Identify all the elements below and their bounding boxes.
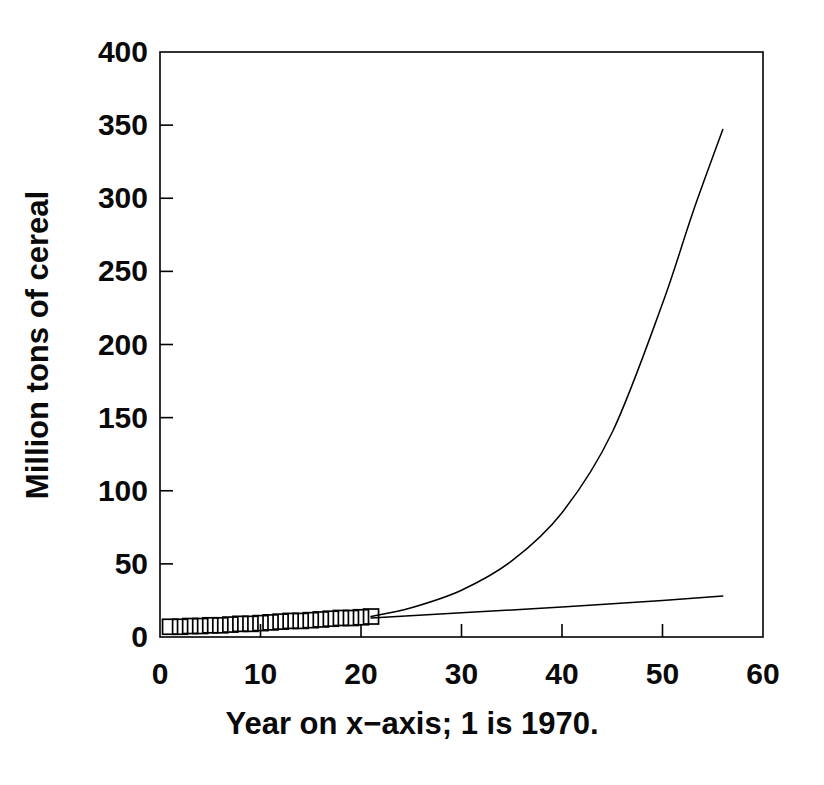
series-observed-markers [163, 609, 379, 634]
plot-frame [160, 52, 763, 637]
x-tick-label-40: 40 [545, 659, 578, 689]
x-tick-label-0: 0 [152, 659, 169, 689]
x-tick-label-10: 10 [244, 659, 277, 689]
x-tick-label-60: 60 [746, 659, 779, 689]
x-tick-label-50: 50 [646, 659, 679, 689]
chart-figure: 050100150200250300350400 0102030405060 M… [0, 0, 824, 785]
y-axis-title-text: Million tons of cereal [20, 190, 56, 498]
y-axis-title: Million tons of cereal [16, 52, 60, 637]
x-tick-label-20: 20 [344, 659, 377, 689]
series-linear-projection-line [371, 596, 723, 618]
series-exponential-projection-curve [371, 130, 723, 617]
data-marker [364, 609, 379, 624]
y-axis-tick-marks [160, 125, 173, 564]
x-tick-label-30: 30 [445, 659, 478, 689]
x-axis-title-text: Year on x−axis; 1 is 1970. [0, 706, 824, 742]
